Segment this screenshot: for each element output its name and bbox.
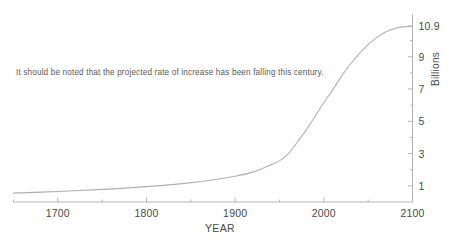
y-tick-label: 5 — [419, 115, 425, 127]
y-tick-label: 1 — [419, 180, 425, 192]
x-tick-label: 1900 — [223, 207, 247, 219]
x-axis-title: YEAR — [160, 222, 280, 234]
x-tick-label: 2000 — [312, 207, 336, 219]
y-tick-label: 9 — [419, 51, 425, 63]
x-tick-label: 2100 — [400, 207, 424, 219]
population-line — [14, 26, 413, 193]
y-axis-title: Billions — [430, 52, 441, 86]
y-tick-label: 3 — [419, 148, 425, 160]
x-tick-label: 1700 — [46, 207, 70, 219]
chart-annotation-note: It should be noted that the projected ra… — [16, 68, 324, 77]
y-tick-label: 10.9 — [419, 20, 440, 32]
population-chart: It should be noted that the projected ra… — [0, 0, 461, 245]
y-tick-label: 7 — [419, 83, 425, 95]
x-tick-label: 1800 — [134, 207, 158, 219]
